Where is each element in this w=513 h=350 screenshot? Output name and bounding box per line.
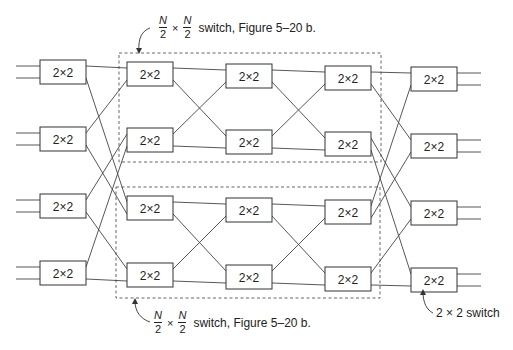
stage2-stage3-wire (173, 82, 226, 134)
top-subnetwork-label: N 2 × N 2 switch, Figure 5–20 b. (157, 15, 316, 40)
fraction-n-over-2: N 2 (178, 310, 186, 335)
switch-2x2-s2-r1: 2×2 (127, 62, 173, 86)
switch-2x2-s1-r3: 2×2 (40, 194, 86, 218)
switch-2x2-s5-r2: 2×2 (411, 134, 457, 158)
fraction-n-over-2: N 2 (159, 15, 167, 40)
switch-label: 2×2 (239, 204, 260, 218)
stage3-stage4-wire (272, 204, 325, 206)
stage4-stage5-wire (371, 138, 411, 207)
switch-2x2-s5-r3: 2×2 (411, 201, 457, 225)
stage1-stage2-wire (86, 279, 127, 281)
stage4-stage5-wire (371, 84, 411, 140)
switch-2x2-s4-r4: 2×2 (325, 267, 371, 291)
switch-2x2-s2-r3: 2×2 (127, 196, 173, 220)
switch-label: 2×2 (53, 200, 74, 214)
stage2-stage3-wire (173, 281, 226, 283)
stage2-stage3-wire (173, 202, 226, 204)
switch-label: 2×2 (53, 133, 74, 147)
switch-2x2-s2-r4: 2×2 (127, 263, 173, 287)
switch-label: 2×2 (140, 68, 161, 82)
switch-label: 2×2 (424, 140, 445, 154)
top-callout-arrow (139, 28, 150, 51)
switch-2x2-s2-r2: 2×2 (127, 128, 173, 152)
benes-network-diagram: 2×22×22×22×22×22×22×22×22×22×22×22×22×22… (0, 0, 513, 350)
stage4-stage5-wire (371, 72, 411, 73)
switch-label: 2×2 (424, 207, 445, 221)
switch-2x2-s1-r1: 2×2 (40, 60, 86, 84)
switch-2x2-s3-r2: 2×2 (226, 130, 272, 154)
switch-2x2-s4-r1: 2×2 (325, 66, 371, 90)
stage3-stage4-wire (272, 84, 325, 136)
switch-label: 2×2 (140, 269, 161, 283)
bottom-callout-arrowhead (132, 298, 138, 304)
stage4-stage5-wire (371, 285, 411, 286)
switch-label: 2×2 (140, 202, 161, 216)
stage1-stage2-wire (86, 78, 127, 202)
switch-label: 2×2 (140, 134, 161, 148)
switch-label: 2×2 (338, 206, 359, 220)
switch-2x2-s3-r1: 2×2 (226, 64, 272, 88)
switch-2x2-s5-r1: 2×2 (411, 67, 457, 91)
switch-label: 2×2 (338, 273, 359, 287)
interconnect-wires (16, 66, 481, 286)
top-label-text: switch, Figure 5–20 b. (198, 21, 315, 35)
switch-2x2-s1-r4: 2×2 (40, 261, 86, 285)
switch-2x2-s1-r2: 2×2 (40, 127, 86, 151)
switch-label: 2×2 (338, 72, 359, 86)
stage4-stage5-wire (371, 219, 411, 273)
switch-label: 2×2 (239, 136, 260, 150)
switch-2x2-s5-r4: 2×2 (411, 268, 457, 292)
fraction-n-over-2: N 2 (183, 15, 191, 40)
switch-2x2-s4-r3: 2×2 (325, 200, 371, 224)
stage3-stage4-wire (272, 283, 325, 285)
stage3-stage4-wire (272, 70, 325, 72)
stage1-stage2-wire (86, 80, 127, 133)
switch-label: 2×2 (53, 267, 74, 281)
switch-label: 2×2 (424, 73, 445, 87)
fraction-n-over-2: N 2 (154, 310, 162, 335)
switch-boxes: 2×22×22×22×22×22×22×22×22×22×22×22×22×22… (40, 60, 457, 292)
stage1-stage2-wire (86, 146, 127, 267)
stage2-stage3-wire (173, 146, 226, 148)
stage2-stage3-wire (173, 68, 226, 70)
switch-callout-arrow (423, 292, 433, 313)
switch-label: 2×2 (338, 138, 359, 152)
switch-label: 2×2 (53, 66, 74, 80)
stage1-stage2-wire (86, 66, 127, 68)
stage4-stage5-wire (371, 85, 411, 206)
switch-label: 2×2 (239, 271, 260, 285)
switch-label: 2×2 (239, 70, 260, 84)
switch-2x2-s3-r3: 2×2 (226, 198, 272, 222)
stage1-stage2-wire (86, 134, 127, 200)
stage3-stage4-wire (272, 218, 325, 271)
switch-callout-label: 2 × 2 switch (436, 306, 500, 320)
switch-label: 2×2 (424, 274, 445, 288)
switch-2x2-s4-r2: 2×2 (325, 132, 371, 156)
stage2-stage3-wire (173, 216, 226, 269)
stage1-stage2-wire (86, 145, 127, 214)
stage1-stage2-wire (86, 212, 127, 269)
stage3-stage4-wire (272, 148, 325, 150)
bottom-callout-arrow (135, 301, 150, 322)
bottom-label-text: switch, Figure 5–20 b. (193, 316, 310, 330)
bottom-subnetwork-label: N 2 × N 2 switch, Figure 5–20 b. (152, 310, 311, 335)
switch-2x2-s3-r4: 2×2 (226, 265, 272, 289)
stage4-stage5-wire (371, 150, 411, 274)
